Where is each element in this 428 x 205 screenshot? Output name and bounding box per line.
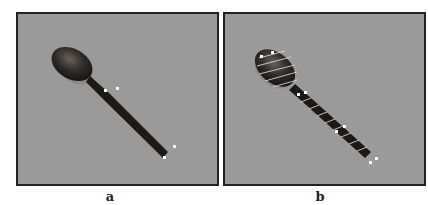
panel-label-a: a [100, 189, 120, 204]
panel-b [223, 12, 426, 186]
spoon-image-b [225, 14, 421, 184]
spoon-image-a [18, 14, 217, 184]
panel-label-b: b [310, 189, 330, 204]
panel-a [16, 12, 219, 186]
